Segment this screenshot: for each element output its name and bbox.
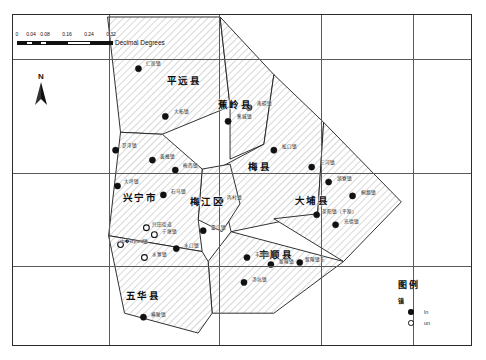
- map-figure: 平远县蕉岭县梅县梅江区大埔县兴宁市丰顺县五华县 仁居镇大柘镇蕉城镇南磜镇罗浮镇黄…: [0, 0, 486, 360]
- town-marker-filled: [314, 212, 320, 218]
- town-label: 蕉城镇: [237, 113, 252, 119]
- town-label: 中�styled镇: [120, 238, 149, 244]
- hollow-circle-icon: [406, 320, 416, 326]
- town-label: 松口镇: [282, 143, 297, 149]
- county-label: 五华县: [126, 288, 161, 302]
- town-label: 茶阳镇（平原）: [322, 208, 357, 214]
- legend-title: 图例: [398, 278, 464, 291]
- town-marker-filled: [297, 259, 303, 265]
- north-arrow: N: [28, 72, 54, 111]
- town-marker-filled: [271, 147, 277, 153]
- town-marker-filled: [241, 279, 247, 285]
- town-marker-filled: [326, 179, 332, 185]
- county-label: 兴宁市: [123, 190, 158, 204]
- legend: 图例 镇 lnun: [398, 278, 464, 331]
- town-label: 大柘镇: [174, 108, 189, 114]
- town-label: 石马镇: [171, 188, 186, 194]
- scale-bar-tick-4: 0.24: [84, 31, 94, 37]
- graticule-line-horizontal-1: [13, 173, 471, 174]
- scale-bar-tick-0: 0: [16, 31, 19, 37]
- town-marker-filled: [173, 246, 179, 252]
- town-label: 畲江镇: [211, 224, 226, 230]
- graticule-line-vertical-2: [321, 15, 322, 345]
- county-label: 平远县: [167, 73, 202, 87]
- town-marker-filled: [149, 157, 155, 163]
- town-label: 丙村镇: [227, 194, 242, 200]
- filled-circle-glyph: [408, 309, 414, 315]
- town-label: 留隍镇东: [305, 256, 325, 262]
- town-marker-filled: [112, 147, 118, 153]
- scale-bar-units-label: Decimal Degrees: [115, 39, 165, 46]
- legend-entry: ln: [398, 309, 464, 315]
- town-label: 梅西镇: [183, 162, 198, 168]
- town-marker-filled: [244, 254, 250, 260]
- town-marker-hollow: [144, 225, 150, 231]
- legend-entry: un: [398, 320, 464, 326]
- town-label: 黄槐镇: [160, 153, 175, 159]
- legend-entry-label: un: [424, 320, 430, 326]
- town-label: 汤坑镇: [252, 276, 267, 282]
- town-label: 横陂镇: [151, 311, 166, 317]
- scale-bar: 00.040.080.160.240.32 Decimal Degrees: [17, 31, 167, 46]
- town-marker-hollow: [142, 255, 148, 261]
- town-label: 三河镇: [320, 159, 335, 165]
- legend-entry-list: lnun: [398, 309, 464, 326]
- town-marker-filled: [160, 192, 166, 198]
- scale-bar-tick-5: 0.32: [106, 31, 116, 37]
- town-label: 兴田街道: [152, 221, 172, 227]
- scale-bar-tick-2: 0.08: [40, 31, 50, 37]
- town-marker-filled: [333, 222, 339, 228]
- town-label: 留隍镇: [279, 258, 294, 264]
- graticule-line-vertical-1: [219, 15, 220, 345]
- county-label: 大埔县: [295, 193, 330, 207]
- town-label: 仁居镇: [146, 60, 161, 66]
- town-marker-filled: [225, 118, 231, 124]
- town-label: 光德镇: [344, 218, 359, 224]
- town-marker-filled: [135, 66, 141, 72]
- town-label: 水寨镇: [152, 251, 167, 257]
- town-label: 水口镇: [184, 242, 199, 248]
- town-label: 湖寮镇: [337, 175, 352, 181]
- graticule-line-vertical-0: [109, 15, 110, 345]
- town-marker-filled: [114, 183, 120, 189]
- town-label: 罗浮镇: [122, 142, 137, 148]
- legend-subtitle: 镇: [398, 296, 464, 305]
- town-label: 南磜镇: [257, 100, 272, 106]
- graticule-line-horizontal-2: [13, 266, 471, 267]
- town-marker-filled: [349, 193, 355, 199]
- legend-entry-label: ln: [424, 309, 428, 315]
- north-arrow-letter: N: [28, 72, 54, 81]
- scale-bar-tick-3: 0.16: [62, 31, 72, 37]
- county-label: 蕉岭县: [218, 97, 253, 111]
- town-marker-filled: [200, 228, 206, 234]
- filled-circle-icon: [406, 309, 416, 315]
- county-label: 梅江区: [190, 194, 225, 208]
- town-label: 丰良镇: [255, 251, 270, 257]
- town-marker-filled: [309, 164, 315, 170]
- scale-bar-tick-1: 0.04: [26, 31, 36, 37]
- county-label: 梅县: [248, 159, 271, 173]
- town-marker-hollow: [151, 232, 157, 238]
- town-marker-filled: [140, 314, 146, 320]
- town-marker-filled: [162, 113, 168, 119]
- town-label: 大坪镇: [124, 178, 139, 184]
- scale-bar-tick-labels: 00.040.080.160.240.32: [17, 31, 167, 38]
- scale-bar-graphic: [17, 41, 113, 45]
- graticule-line-horizontal-0: [13, 59, 471, 60]
- north-arrow-icon: [28, 81, 54, 107]
- hollow-circle-glyph: [408, 320, 414, 326]
- town-label: 桐烟镇: [361, 189, 376, 195]
- town-label: 宁塘镇: [162, 228, 177, 234]
